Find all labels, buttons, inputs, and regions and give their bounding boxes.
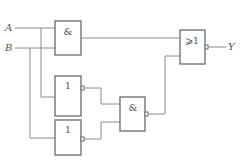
- not-gate-1-symbol: 1: [65, 80, 71, 91]
- wire-g4-to-nor: [148, 56, 180, 114]
- logic-circuit-diagram: A B & 1 1 & ⩾1 Y: [0, 0, 241, 166]
- input-label-b: B: [4, 42, 12, 53]
- not-gate-2-bubble: [81, 137, 84, 141]
- input-label-a: A: [4, 22, 12, 33]
- not-gate-2-symbol: 1: [65, 124, 71, 135]
- not-gate-1-bubble: [81, 86, 84, 90]
- wire-b-to-not2: [30, 48, 55, 138]
- wire-g3-to-nand: [84, 122, 120, 139]
- wire-a-to-not1: [41, 28, 55, 97]
- nor-gate-bubble: [205, 45, 208, 49]
- not-gate-2: 1: [55, 120, 84, 155]
- nand-gate-bubble: [145, 112, 148, 116]
- nand-gate-symbol: &: [129, 102, 138, 113]
- nor-gate-symbol: ⩾1: [185, 35, 199, 46]
- wire-g2-to-nand: [84, 88, 120, 104]
- and-gate-1-symbol: &: [64, 26, 73, 37]
- not-gate-1: 1: [55, 76, 84, 116]
- and-gate-1: &: [55, 21, 81, 55]
- output-label-y: Y: [228, 41, 236, 52]
- nand-gate: &: [120, 97, 148, 131]
- nor-gate: ⩾1: [180, 30, 208, 64]
